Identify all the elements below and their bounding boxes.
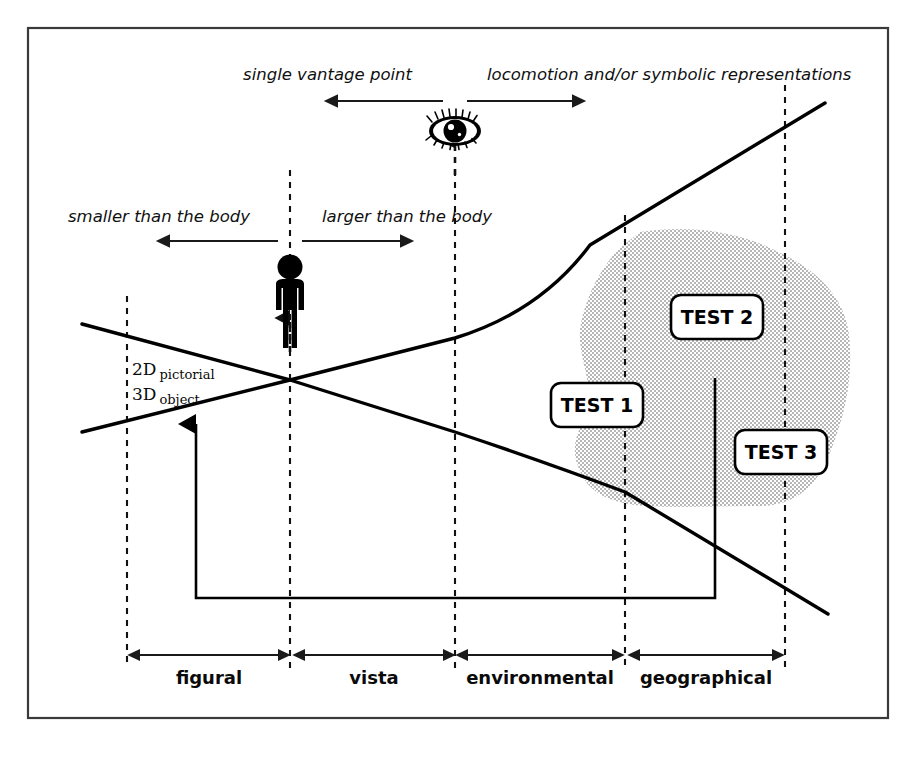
body-axis-left-label: smaller than the body: [68, 207, 250, 226]
scale-label-geographical: geographical: [640, 667, 772, 688]
test-1-label: TEST 1: [561, 394, 633, 416]
test-2-label: TEST 2: [681, 306, 753, 328]
test-1-box-group[interactable]: TEST 1: [551, 383, 643, 427]
test-3-box-group[interactable]: TEST 3: [735, 430, 827, 474]
dimension-label-3d-main: 3D: [132, 384, 156, 404]
figure-root: single vantage point locomotion and/or s…: [0, 0, 918, 763]
top-axis-left-label: single vantage point: [243, 65, 412, 84]
top-axis-right-label: locomotion and/or symbolic representatio…: [487, 65, 852, 84]
spatial-scale-diagram: single vantage point locomotion and/or s…: [0, 0, 918, 763]
person-icon: [276, 255, 304, 349]
scale-item-geographical: geographical: [640, 655, 772, 688]
scale-item-vista: vista: [305, 655, 443, 688]
scale-axis-group: figural vista environmental geographical: [140, 655, 772, 688]
scale-item-figural: figural: [140, 655, 278, 688]
top-axis-group: single vantage point locomotion and/or s…: [243, 65, 852, 101]
scale-item-environmental: environmental: [466, 655, 614, 688]
dimension-label-2d-sub: pictorial: [159, 367, 214, 382]
body-axis-group: smaller than the body larger than the bo…: [68, 207, 492, 241]
dimension-label-2d: 2Dpictorial: [132, 359, 215, 382]
scale-label-figural: figural: [176, 667, 242, 688]
scale-label-environmental: environmental: [466, 667, 614, 688]
eye-icon: [426, 109, 481, 150]
dimension-label-3d-sub: object: [159, 392, 200, 407]
test-2-box-group[interactable]: TEST 2: [671, 295, 763, 339]
test-3-label: TEST 3: [745, 441, 817, 463]
scale-label-vista: vista: [349, 667, 398, 688]
body-axis-right-label: larger than the body: [322, 207, 492, 226]
dimension-labels-group: 2Dpictorial 3Dobject: [132, 359, 215, 407]
dimension-label-2d-main: 2D: [132, 359, 156, 379]
dimension-label-3d: 3Dobject: [132, 384, 201, 407]
